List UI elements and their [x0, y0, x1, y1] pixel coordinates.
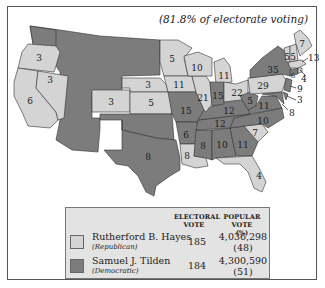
popular-vote: 4,300,590 (51): [218, 255, 268, 277]
label-ME: 7: [299, 39, 305, 49]
label-IN: 15: [212, 91, 224, 101]
electoral-vote: 185: [182, 236, 212, 247]
electoral-vote: 184: [182, 260, 212, 271]
label-MO: 15: [180, 106, 192, 116]
label-NV: 3: [47, 75, 53, 85]
label-MS: 8: [200, 141, 206, 151]
label-GA: 11: [237, 140, 248, 150]
label-KY: 12: [223, 106, 234, 116]
label-RI: 4: [301, 74, 307, 84]
label-WV: 5: [247, 96, 253, 106]
label-NJ: 9: [297, 84, 303, 94]
label-CA: 6: [27, 96, 33, 106]
label-CT: 6: [291, 72, 296, 80]
label-NY: 35: [267, 65, 279, 75]
label-AR: 6: [183, 130, 189, 140]
label-LA: 8: [184, 151, 190, 161]
label-NH: 5: [290, 52, 296, 62]
state-RI: [298, 68, 302, 73]
label-SC: 7: [252, 128, 258, 138]
label-NC: 10: [257, 116, 269, 126]
candidate-name: Samuel J. Tilden: [92, 255, 170, 266]
label-MA: 13: [308, 53, 320, 63]
candidate-party: (Republican): [92, 243, 137, 251]
label-WI: 10: [191, 63, 203, 73]
candidate-name: Rutherford B. Hayes: [92, 231, 191, 242]
election-results-legend: ELECTORAL VOTE POPULAR VOTE (%) Rutherfo…: [65, 207, 270, 279]
label-TX: 8: [145, 152, 151, 162]
label-OH: 22: [231, 88, 242, 98]
label-NE: 3: [145, 80, 151, 90]
legend-row-hayes: Rutherford B. Hayes (Republican) 185 4,0…: [70, 230, 266, 256]
label-VA: 11: [258, 101, 269, 111]
republican-swatch: [70, 235, 84, 249]
header-electoral-vote: ELECTORAL VOTE: [174, 213, 214, 229]
label-TN: 12: [214, 119, 225, 129]
label-PA: 29: [257, 81, 269, 91]
legend-row-tilden: Samuel J. Tilden (Democratic) 184 4,300,…: [70, 254, 266, 280]
label-OR: 3: [36, 53, 42, 63]
label-MD: 8: [289, 108, 295, 118]
label-AL: 10: [216, 140, 228, 150]
label-MN: 5: [169, 54, 175, 64]
label-DE: 3: [297, 95, 303, 105]
label-CO: 3: [108, 97, 114, 107]
label-KS: 5: [148, 98, 154, 108]
popular-vote: 4,036,298 (48): [218, 231, 268, 253]
label-IA: 11: [173, 80, 184, 90]
label-MI: 11: [218, 71, 229, 81]
label-IL: 21: [197, 93, 208, 103]
democratic-swatch: [70, 259, 84, 273]
label-FL: 4: [256, 171, 262, 181]
candidate-party: (Democratic): [92, 267, 138, 275]
